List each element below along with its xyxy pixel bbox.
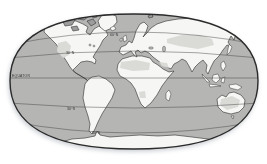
latitude-label-60n: 60°N	[110, 33, 119, 37]
great-lakes	[89, 44, 91, 46]
latitude-label-60s: 60°S	[92, 131, 101, 135]
new-zealand-south	[246, 119, 250, 124]
black-sea	[149, 47, 154, 49]
world-map-figure: 60°N 30°N EQUATOR 30°S 60°S	[0, 0, 267, 164]
world-map: 60°N 30°N EQUATOR 30°S 60°S	[0, 0, 267, 164]
siberian-island	[182, 14, 188, 17]
caspian-sea	[162, 46, 165, 52]
latitude-label-30s: 30°S	[67, 107, 76, 111]
great-lakes	[93, 45, 95, 47]
new-zealand-north	[249, 113, 252, 119]
shaded-region-kalahari	[139, 91, 146, 98]
siberian-island	[196, 14, 201, 17]
latitude-label-30n: 30°N	[66, 51, 75, 55]
equator-label: EQUATOR	[12, 74, 31, 78]
